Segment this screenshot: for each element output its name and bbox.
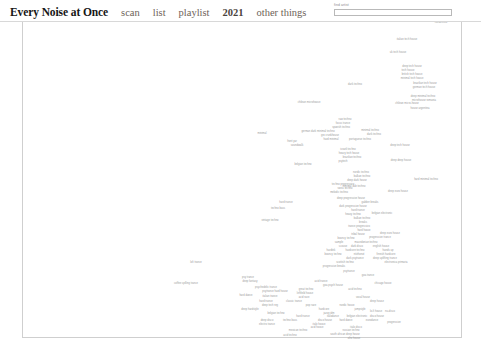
nav-link-2021[interactable]: 2021 [223, 6, 244, 19]
genre-label[interactable]: italodance [327, 315, 339, 318]
genre-label[interactable]: hardtek [327, 249, 336, 252]
genre-label[interactable]: belgian electronic [347, 315, 368, 318]
genre-label[interactable]: heavy techno [345, 213, 361, 216]
genre-label[interactable]: chilean micro-house [395, 102, 419, 105]
genre-label[interactable]: coffee spilling trance [174, 282, 198, 285]
find-artist-input[interactable] [334, 9, 452, 16]
genre-label[interactable]: deep tech house [402, 65, 421, 68]
genre-label[interactable]: scouse [339, 245, 347, 248]
genre-label[interactable]: hardcore [319, 308, 329, 311]
genre-label[interactable]: vocal house [356, 296, 370, 299]
nav-link-other-things[interactable]: other things [257, 6, 307, 19]
genre-label[interactable]: scottish techno [336, 261, 354, 264]
genre-label[interactable]: british tech house [402, 73, 423, 76]
genre-label[interactable]: belgian electronic [372, 212, 393, 215]
genre-label[interactable]: deep progressive house [337, 197, 365, 200]
genre-label[interactable]: bouncy techno [337, 237, 354, 240]
genre-label[interactable]: finnish hardcore [377, 253, 396, 256]
genre-label[interactable]: israeli techno [340, 148, 356, 151]
genre-label[interactable]: focus trance [336, 122, 350, 125]
genre-label[interactable]: chicago house [375, 282, 392, 285]
genre-label[interactable]: eurodance [366, 319, 378, 322]
genre-label[interactable]: belgian techno [294, 163, 311, 166]
genre-label[interactable]: acid techno [283, 334, 297, 337]
genre-label[interactable]: electronica primaria [384, 261, 407, 264]
genre-label[interactable]: psytrance [343, 270, 354, 273]
genre-label[interactable]: german tech house [413, 86, 436, 89]
genre-label[interactable]: minimal techno [361, 129, 379, 132]
genre-label[interactable]: psychedelic trance [255, 286, 277, 289]
genre-label[interactable]: disco house [318, 319, 332, 322]
genre-label[interactable]: hard trance [351, 209, 364, 212]
genre-label[interactable]: minimal dub techno [343, 185, 366, 188]
genre-label[interactable]: hard minimal techno [414, 178, 438, 181]
genre-label[interactable]: hard dance [239, 294, 252, 297]
genre-label[interactable]: heavy tech house [339, 152, 360, 155]
genre-label[interactable]: house argentina [411, 107, 430, 110]
genre-label[interactable]: macedonian techno [355, 241, 378, 244]
nav-link-list[interactable]: list [153, 6, 166, 19]
genre-label[interactable]: minimal [257, 132, 266, 135]
nav-link-playlist[interactable]: playlist [179, 6, 210, 19]
genre-label[interactable]: vintage techno [261, 219, 278, 222]
genre-label[interactable]: nitzhonot [354, 253, 365, 256]
genre-label[interactable]: psy trance [242, 276, 254, 279]
genre-label[interactable]: dark progressive house [339, 205, 366, 208]
genre-label[interactable]: russian techno [342, 329, 359, 332]
genre-label[interactable]: dark psytrance [346, 257, 363, 260]
genre-label[interactable]: deep euro house [388, 190, 408, 193]
genre-label[interactable]: progressive trance [369, 236, 391, 239]
genre-label[interactable]: gro crunkhouse [321, 134, 339, 137]
genre-label[interactable]: deep tech house [390, 144, 409, 147]
genre-label[interactable]: acid house [311, 326, 324, 329]
genre-label[interactable]: psytech [338, 160, 347, 163]
genre-label[interactable]: deep house [370, 300, 384, 303]
genre-label[interactable]: deep tech nrg [262, 304, 278, 307]
genre-label[interactable]: hard trance [296, 315, 309, 318]
genre-label[interactable]: deep uplifting trance [373, 257, 397, 260]
genre-label[interactable]: front yar [287, 140, 297, 143]
genre-label[interactable]: hard trance [279, 201, 292, 204]
genre-label[interactable]: dark disco [351, 245, 363, 248]
genre-label[interactable]: hard dance [339, 319, 352, 322]
genre-label[interactable]: lo-fi house [370, 310, 382, 313]
genre-label[interactable]: breaks [359, 221, 367, 224]
genre-label[interactable]: great techno [299, 288, 314, 291]
genre-label[interactable]: nu-disco [385, 310, 395, 313]
genre-label[interactable]: uk tech house [390, 51, 406, 54]
genre-label[interactable]: tribal house [351, 233, 365, 236]
genre-label[interactable]: deep disco [261, 319, 274, 322]
genre-label[interactable]: bouncy techno [324, 253, 341, 256]
genre-label[interactable]: mexican techno [289, 329, 307, 332]
genre-label[interactable]: techno bass [271, 207, 285, 210]
genre-label[interactable]: soundwalk [291, 144, 303, 147]
genre-label[interactable]: progressive [387, 321, 401, 324]
genre-label[interactable]: english house [373, 245, 389, 248]
genre-label[interactable]: chilean microhouse [298, 101, 321, 104]
genre-label[interactable]: sample [335, 241, 343, 244]
genre-label[interactable]: afro house [348, 337, 360, 340]
genre-label[interactable]: raw techno [339, 118, 352, 121]
genre-label[interactable]: psytrance hard house [262, 290, 287, 293]
genre-label[interactable]: italian tech house [397, 38, 418, 41]
genre-label[interactable]: nordic house [339, 304, 354, 307]
genre-label[interactable]: deep minimal techno [411, 95, 435, 98]
genre-label[interactable]: leftfield house [297, 292, 313, 295]
genre-label[interactable]: progressive breaks [323, 265, 345, 268]
genre-label[interactable]: disco house [370, 315, 384, 318]
genre-label[interactable]: hands up [383, 249, 394, 252]
genre-label[interactable]: portuguese techno [349, 138, 371, 141]
genre-label[interactable]: deep dark house [347, 179, 367, 182]
genre-label[interactable]: goa psych house [323, 284, 343, 287]
genre-label[interactable]: balkan techno [354, 175, 370, 178]
genre-label[interactable]: jumpstyle [354, 308, 365, 311]
genre-label[interactable]: hard trance [259, 300, 272, 303]
genre-label[interactable]: belgian techno [267, 312, 284, 315]
genre-label[interactable]: goa trance [362, 274, 374, 277]
genre-label[interactable]: brazilian tech house [413, 82, 436, 85]
genre-label[interactable]: melodic techno [330, 191, 348, 194]
genre-label[interactable]: trance progressivo [348, 225, 370, 228]
genre-label[interactable]: pop rave [306, 304, 316, 307]
genre-label[interactable]: classic trance [286, 300, 302, 303]
genre-label[interactable]: dark techno [348, 83, 362, 86]
